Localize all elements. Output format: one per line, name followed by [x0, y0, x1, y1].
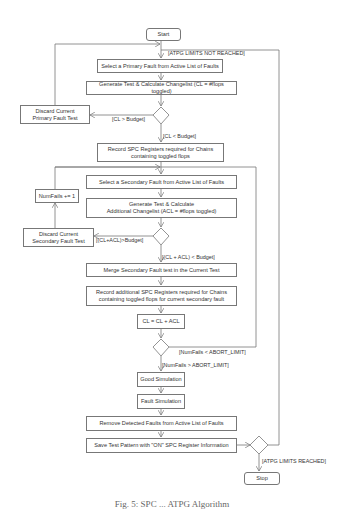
generate-additional-changelist-box: Generate Test & Calculate Additional Cha…: [86, 198, 237, 218]
merge-secondary-test-box: Merge Secondary Fault test in the Curren…: [86, 263, 237, 277]
stop-node: Stop: [244, 472, 280, 485]
figure-caption: Fig. 5: SPC ... ATPG Algorithm: [0, 499, 344, 509]
label-cl-gt-budget: [CL > Budget]: [112, 116, 145, 122]
record-spc-registers-box: Record SPC Registers required for Chains…: [97, 143, 224, 162]
label-cl-lt-budget: [CL < Budget]: [163, 133, 196, 139]
start-node: Start: [146, 28, 181, 41]
select-secondary-fault-box: Select a Secondary Fault from Active Lis…: [86, 175, 237, 189]
label-cl-acl-lt-budget: [(CL + ACL) < Budget]: [162, 254, 215, 260]
label-numfails-lt-abort: [NumFails < ABORT_LIMIT]: [179, 349, 246, 355]
select-primary-fault-box: Select a Primary Fault from Active List …: [97, 59, 223, 73]
fault-simulation-box: Fault Simulation: [137, 394, 185, 409]
decision-budget: [153, 107, 169, 124]
label-numfails-gt-abort: [NumFails > ABORT_LIMIT]: [162, 362, 229, 368]
generate-test-box: Generate Test & Calculate Changelist (CL…: [86, 81, 237, 95]
discard-secondary-test-box: Discard Current Secondary Fault Test: [23, 228, 94, 247]
numfails-increment-box: NumFails += 1: [35, 189, 79, 203]
record-additional-spc-box: Record additional SPC Registers required…: [86, 286, 237, 306]
remove-detected-faults-box: Remove Detected Faults from Active List …: [86, 416, 237, 431]
decision-atpg-limits: [250, 436, 268, 454]
good-simulation-box: Good Simulation: [137, 372, 185, 387]
save-test-pattern-box: Save Test Pattern with "ON" SPC Register…: [86, 438, 237, 453]
decision-abort-limit: [153, 339, 169, 356]
label-cl-acl-gt-budget: [(CL+ACL)>Budget]: [96, 237, 143, 243]
discard-primary-test-box: Discard Current Primary Fault Test: [20, 105, 90, 124]
decision-combined-budget: [153, 228, 169, 245]
cl-update-box: CL = CL + ACL: [137, 314, 185, 329]
label-atpg-reached: [ATPG LIMITS REACHED]: [262, 458, 326, 464]
label-atpg-not-reached: [ATPG LIMITS NOT REACHED]: [168, 50, 245, 56]
